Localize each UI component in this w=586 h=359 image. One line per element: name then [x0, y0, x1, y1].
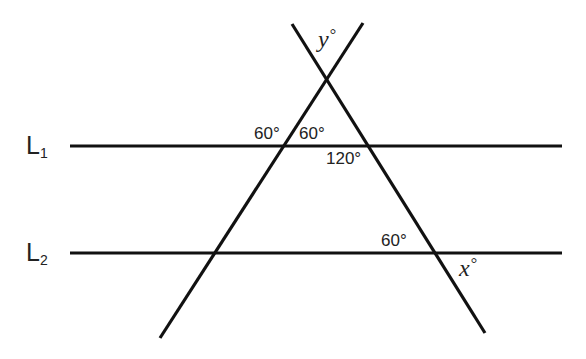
line-label-l2-name: L [26, 238, 40, 266]
angle-label-x-var: x [459, 255, 470, 281]
line-label-l2: L2 [26, 240, 48, 267]
angle-label-l1-left-upper: 60° [254, 125, 280, 142]
line-label-l2-subscript: 2 [40, 252, 48, 268]
angle-label-y-var: y [318, 26, 329, 52]
angle-label-l1-right-lower: 120° [326, 150, 361, 167]
angle-label-l1-inner-upper: 60° [299, 125, 325, 142]
transversal-left [160, 23, 363, 338]
line-label-l1-subscript: 1 [40, 145, 48, 161]
transversal-right [292, 24, 485, 333]
geometry-diagram [0, 0, 586, 359]
line-label-l1: L1 [26, 133, 48, 160]
angle-label-x: x° [459, 256, 477, 280]
degree-symbol: ° [471, 255, 477, 272]
degree-symbol: ° [330, 26, 336, 43]
line-label-l1-name: L [26, 131, 40, 159]
angle-label-l2-right-upper: 60° [381, 232, 407, 249]
angle-label-y: y° [318, 27, 336, 51]
